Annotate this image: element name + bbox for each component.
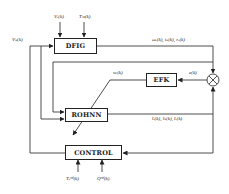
signal-tref: Tₑʳᵉᶠ(k) <box>66 176 79 182</box>
signal-dfig-output: ωᵣ(k), iₛ(k), rᵣ(k) <box>152 37 185 43</box>
signal-tm: Tₘ(k) <box>79 14 90 20</box>
efk-block: EFK <box>146 73 177 87</box>
summing-junction <box>207 74 219 86</box>
control-label: CONTROL <box>74 149 113 157</box>
signal-error: e(k) <box>189 70 197 76</box>
dfig-block: DFIG <box>54 38 97 54</box>
signal-vr: Vᵣ(k) <box>54 14 64 20</box>
dfig-label: DFIG <box>66 42 86 50</box>
rohnn-label: ROHNN <box>71 111 101 119</box>
signal-qref: Qʳᵉᶠ(k) <box>97 176 109 182</box>
block-diagram-wires <box>0 0 229 194</box>
signal-rohnn-output: îᵣ(k), îₛ(k), îᵣ(k) <box>152 116 182 122</box>
signal-vs: Vₛ(k) <box>12 37 23 43</box>
signal-weights: wᵢ(k) <box>113 70 123 76</box>
control-block: CONTROL <box>65 145 122 160</box>
efk-label: EFK <box>154 76 170 84</box>
rohnn-block: ROHNN <box>65 108 108 122</box>
